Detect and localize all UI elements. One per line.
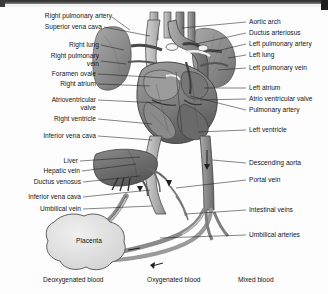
label-left-pulmonary-vein: Left pulmonary vein <box>249 64 328 72</box>
label-right-atrium: Right atrium <box>4 80 96 88</box>
label-right-pulmonary-vein: Right pulmonary vein <box>4 52 99 67</box>
label-portal-vein: Portal vein <box>249 176 327 184</box>
intestinal-veins-shape <box>170 186 188 220</box>
label-liver: Liver <box>4 157 78 165</box>
scanned-figure: Right pulmonary artery Superior vena cav… <box>0 0 328 294</box>
legend-item-mixed: Mixed blood <box>238 276 274 283</box>
label-inferior-vena-cava-lower: Inferior vena cava <box>0 193 81 201</box>
legend-item-oxygenated: Oxygenated blood <box>147 276 201 283</box>
label-right-pulmonary-artery: Right pulmonary artery <box>4 12 112 20</box>
label-left-ventricle: Left ventricle <box>249 126 327 134</box>
legend-item-deoxygenated: Deoxygenated blood <box>43 276 104 283</box>
label-inferior-vena-cava-upper: Inferior vena cava <box>0 132 96 140</box>
liver-shape <box>94 149 172 196</box>
label-ductus-venosus: Ductus venosus <box>2 178 81 186</box>
label-pulmonary-artery: Pulmonary artery <box>249 106 327 114</box>
right-arrow-icon <box>238 276 328 294</box>
label-descending-aorta: Descending aorta <box>249 159 327 167</box>
label-atrio-ventricular-valve: Atrio ventricular valve <box>249 95 328 103</box>
label-left-lung: Left lung <box>249 51 327 59</box>
umbilical-arteries-shape <box>110 210 228 269</box>
label-intestinal-veins: Intestinal veins <box>249 206 327 214</box>
label-umbilical-arteries: Umbilical arteries <box>249 231 327 239</box>
label-placenta: Placenta <box>63 237 115 245</box>
label-right-ventricle: Right ventricle <box>4 115 96 123</box>
label-left-pulmonary-artery: Left pulmonary artery <box>249 40 328 48</box>
label-left-atrium: Left atrium <box>249 84 327 92</box>
legend: Deoxygenated blood Oxygenated blood Mixe… <box>0 275 328 291</box>
label-hepatic-vein: Hepatic vein <box>4 167 80 175</box>
label-superior-vena-cava: Superior vena cava <box>4 23 102 31</box>
label-umbilical-vein: Umbilical vein <box>2 205 81 213</box>
label-foramen-ovale: Foramen ovale <box>4 70 96 78</box>
descending-aorta-shape <box>200 136 214 210</box>
label-ductus-arteriosus: Ductus arteriosus <box>249 29 327 37</box>
label-atrioventricular-valve: Atrioventricular valve <box>4 96 96 111</box>
label-aortic-arch: Aortic arch <box>249 18 327 26</box>
label-right-lung: Right lung <box>4 41 99 49</box>
